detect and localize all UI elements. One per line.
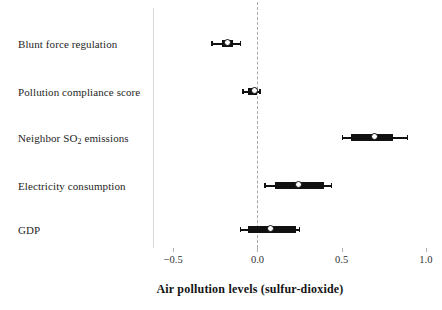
plot-panel: [153, 8, 436, 248]
interval-row: [153, 221, 436, 239]
x-axis-title: Air pollution levels (sulfur-dioxide): [0, 282, 442, 297]
confidence-interval-cap: [240, 227, 241, 232]
x-axis-tick: [257, 248, 258, 252]
point-estimate-marker: [224, 39, 231, 46]
x-axis: −0.50.00.51.0: [153, 248, 436, 274]
confidence-interval-cap: [264, 183, 265, 188]
point-estimate-marker: [267, 225, 274, 232]
point-estimate-marker: [251, 87, 258, 94]
interval-row: [153, 177, 436, 195]
confidence-interval-cap: [299, 227, 300, 232]
row-label-electricity-consumption: Electricity consumption: [18, 180, 146, 192]
x-axis-tick-label: 0.0: [251, 254, 264, 266]
interval-row: [153, 129, 436, 147]
confidence-interval-cap: [331, 183, 332, 188]
point-estimate-marker: [295, 181, 302, 188]
x-axis-tick: [426, 248, 427, 252]
row-label-blunt-force-regulation: Blunt force regulation: [18, 38, 146, 50]
confidence-interval-cap: [242, 89, 243, 94]
point-estimate-marker: [371, 133, 378, 140]
x-axis-tick-label: −0.5: [164, 254, 183, 266]
confidence-interval-cap: [259, 89, 260, 94]
interval-row: [153, 83, 436, 101]
row-label-neighbor-so2-emissions: Neighbor SO2 emissions: [18, 132, 146, 144]
x-axis-tick: [342, 248, 343, 252]
x-axis-tick-label: 1.0: [419, 254, 432, 266]
x-axis-tick-label: 0.5: [335, 254, 348, 266]
x-axis-title-text: Air pollution levels (sulfur-dioxide): [156, 282, 343, 297]
x-axis-tick: [173, 248, 174, 252]
interval-row: [153, 35, 436, 53]
confidence-interval-cap: [407, 135, 408, 140]
confidence-interval-cap: [240, 41, 241, 46]
row-label-pollution-compliance-score: Pollution compliance score: [18, 86, 146, 98]
confidence-interval-cap: [342, 135, 343, 140]
row-label-gdp: GDP: [18, 224, 146, 236]
coefficient-plot-figure: Blunt force regulation Pollution complia…: [0, 0, 442, 310]
confidence-interval-cap: [211, 41, 212, 46]
